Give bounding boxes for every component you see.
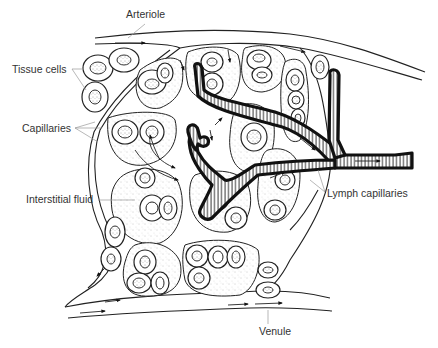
label-tissue-cells: Tissue cells: [12, 63, 86, 90]
venule-vessel: [65, 291, 332, 318]
arteriole-label: Arteriole: [126, 8, 165, 20]
tissue-cell-group-outer-left: [82, 48, 139, 112]
lymph-capillaries-label: Lymph capillaries: [327, 187, 408, 199]
capillary-bed-diagram: Arteriole Tissue cells Capillaries Inter…: [0, 0, 438, 348]
tissue-cells-label: Tissue cells: [12, 63, 66, 75]
label-venule: Venule: [259, 310, 291, 337]
interstitial-fluid-label: Interstitial fluid: [26, 193, 93, 205]
label-capillaries: Capillaries: [22, 122, 102, 142]
venule-label: Venule: [259, 325, 291, 337]
capillaries-label: Capillaries: [22, 122, 71, 134]
